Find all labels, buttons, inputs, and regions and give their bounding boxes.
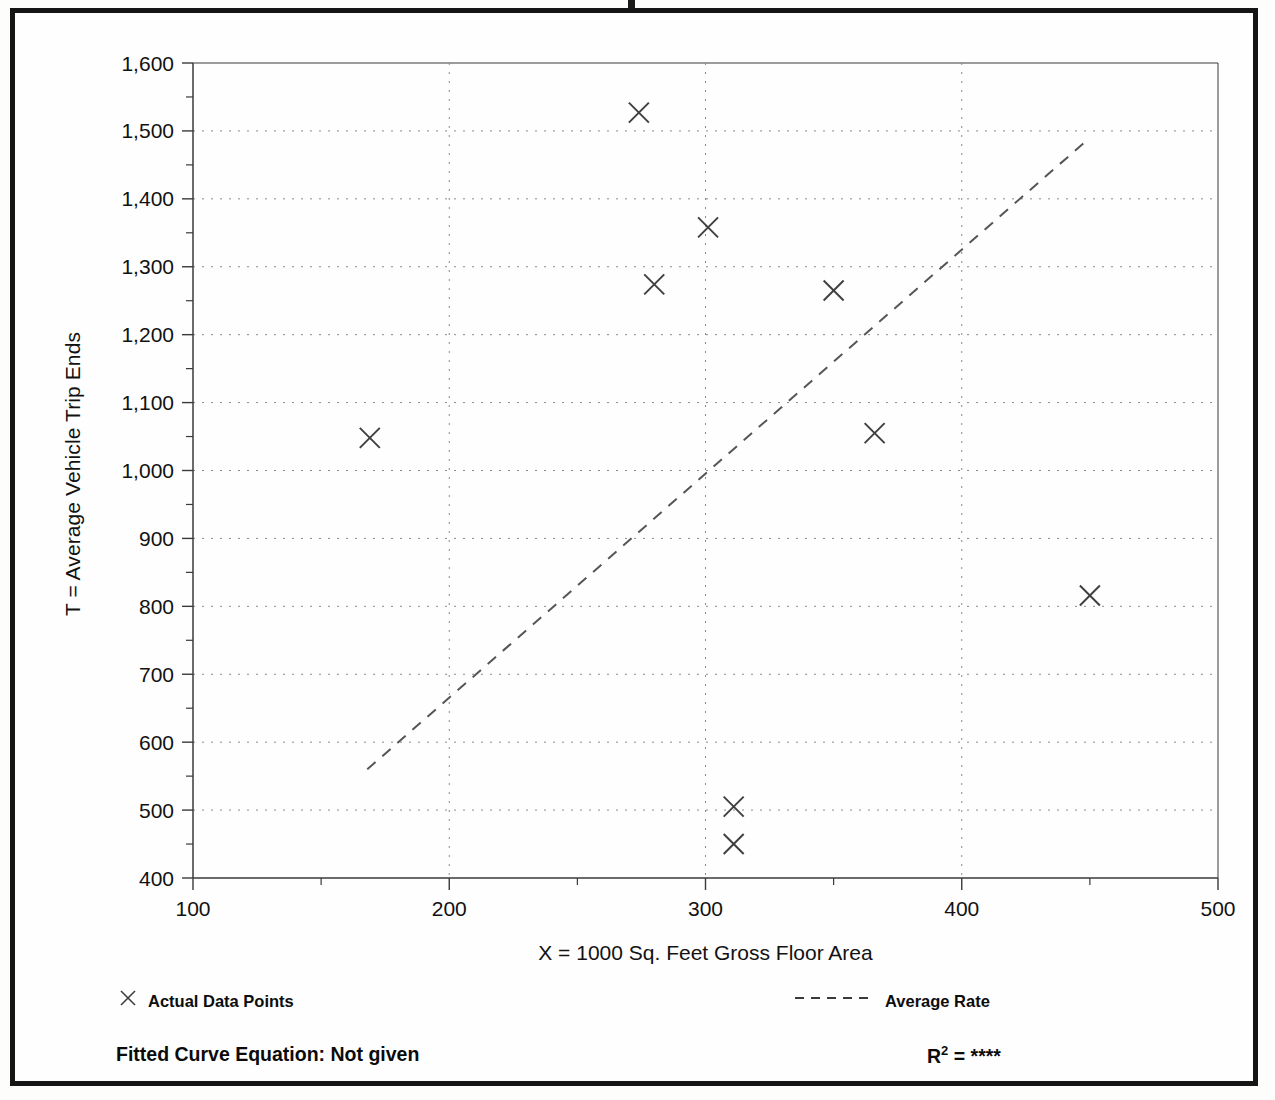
scatter-plot-svg: 4005006007008009001,0001,1001,2001,3001,… [0,0,1275,1100]
x-tick-label: 500 [1200,897,1235,920]
r-squared-value: R2 = **** [927,1043,1001,1068]
legend-dashed-line-icon [795,996,869,1000]
x-tick-label: 300 [688,897,723,920]
legend-x-marker-icon [118,988,138,1008]
y-tick-label: 1,100 [121,391,174,414]
y-tick-label: 700 [139,663,174,686]
y-axis-title: T = Average Vehicle Trip Ends [61,264,85,684]
figure-page: 4005006007008009001,0001,1001,2001,3001,… [0,0,1275,1100]
y-tick-label: 1,600 [121,52,174,75]
data-point-marker [724,834,744,854]
y-tick-label: 900 [139,527,174,550]
x-tick-label: 100 [175,897,210,920]
x-tick-label: 200 [432,897,467,920]
plot-area: 4005006007008009001,0001,1001,2001,3001,… [0,0,1275,1100]
data-point-marker [724,797,744,817]
axis-ticks [182,63,1218,890]
data-point-markers [360,103,1100,854]
fitted-curve-equation: Fitted Curve Equation: Not given [116,1043,419,1066]
y-tick-label: 1,500 [121,119,174,142]
y-tick-label: 1,300 [121,255,174,278]
data-point-marker [865,423,885,443]
y-tick-label: 800 [139,595,174,618]
trend-line-segment [367,138,1090,770]
axis-tick-labels: 4005006007008009001,0001,1001,2001,3001,… [121,52,1235,921]
y-tick-label: 400 [139,867,174,890]
data-point-marker [824,281,844,301]
x-axis-title: X = 1000 Sq. Feet Gross Floor Area [193,941,1218,965]
data-point-marker [644,274,664,294]
legend-average-rate-label: Average Rate [885,992,990,1011]
x-tick-label: 400 [944,897,979,920]
r-squared-equals: = **** [948,1045,1001,1067]
average-rate-trend-line [367,138,1090,770]
data-point-marker [698,217,718,237]
data-point-marker [1080,585,1100,605]
data-point-marker [629,103,649,123]
y-tick-label: 1,400 [121,187,174,210]
gridlines [193,63,1218,878]
y-tick-label: 600 [139,731,174,754]
data-point-marker [360,428,380,448]
y-tick-label: 1,200 [121,323,174,346]
legend-actual-data-points-label: Actual Data Points [148,992,294,1011]
r-squared-base: R [927,1045,941,1067]
y-tick-label: 1,000 [121,459,174,482]
y-tick-label: 500 [139,799,174,822]
